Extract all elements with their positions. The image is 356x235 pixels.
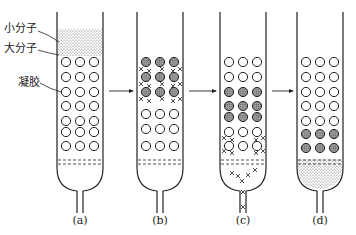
small-molecule-cross-icon [241,190,245,194]
gel-bead-icon [89,127,98,136]
small-molecule-cross-icon [139,97,143,101]
gel-bead-filled-icon [238,101,247,110]
gel-bead-filled-icon [224,101,233,110]
gel-bead-icon [315,57,324,66]
gel-bead-icon [315,87,324,96]
gel-bead-icon [155,141,164,150]
gel-bead-icon [329,116,338,125]
small-molecule-cross-icon [160,67,164,71]
gel-bead-icon [224,72,233,81]
gel-bead-icon [329,87,338,96]
gel-bead-icon [141,141,150,150]
eluted-small-molecule-band [298,159,342,189]
sample-band-stipple [58,29,102,56]
gel-bead-icon [315,116,324,125]
gel-bead-icon [252,141,261,150]
gel-bead-icon [61,141,70,150]
caption-c: (c) [236,214,251,227]
gel-bead-icon [89,101,98,110]
gel-bead-filled-icon [315,129,324,138]
gel-bead-icon [89,141,98,150]
gel-bead-icon [238,141,247,150]
captions-group: (a)(b)(c)(d) [72,214,327,227]
column-d [297,12,343,213]
gel-bead-filled-icon [155,87,164,96]
small-molecule-cross-icon [222,136,226,140]
small-molecule-cross-icon [230,138,234,142]
gel-filtration-diagram: 小分子 大分子 凝胶 (a)(b)(c)(d) [0,0,356,235]
gel-bead-filled-icon [238,112,247,121]
gel-bead-filled-icon [141,57,150,66]
gel-bead-icon [238,57,247,66]
small-molecule-cross-icon [261,136,265,140]
gel-bead-icon [301,116,310,125]
gel-bead-filled-icon [301,143,310,152]
gel-bead-icon [301,72,310,81]
gel-bead-icon [75,141,84,150]
gel-bead-icon [301,87,310,96]
gel-bead-icon [75,87,84,96]
small-molecule-cross-icon [178,67,182,71]
gel-bead-icon [75,127,84,136]
column-b [137,12,183,213]
gel-label: 凝胶 [18,75,40,89]
gel-bead-filled-icon [141,72,150,81]
small-molecule-cross-icon [254,151,258,155]
gel-bead-icon [75,116,84,125]
gel-bead-filled-icon [169,72,178,81]
gel-bead-icon [301,57,310,66]
gel-bead-icon [155,109,164,118]
gel-bead-filled-icon [252,112,261,121]
gel-bead-icon [252,127,261,136]
large-molecule-leader-line [38,50,59,55]
small-molecule-cross-icon [230,171,234,175]
gel-bead-icon [329,57,338,66]
annotation-labels: 小分子 大分子 凝胶 [4,22,61,92]
gel-bead-icon [141,109,150,118]
gel-bead-icon [169,124,178,133]
gel-bead-filled-icon [155,72,164,81]
column-c [220,12,266,213]
gel-bead-icon [61,72,70,81]
gel-bead-icon [238,72,247,81]
columns-group [57,12,343,213]
gel-bead-filled-icon [155,57,164,66]
caption-a: (a) [72,214,87,227]
gel-bead-filled-icon [141,87,150,96]
gel-bead-icon [224,57,233,66]
gel-bead-filled-icon [224,112,233,121]
gel-bead-icon [61,87,70,96]
caption-d: (d) [312,214,328,227]
gel-bead-icon [89,72,98,81]
gel-bead-filled-icon [169,87,178,96]
small-molecule-cross-icon [222,149,226,153]
small-molecule-cross-icon [236,174,240,178]
gel-bead-icon [75,57,84,66]
gel-bead-icon [89,87,98,96]
small-molecule-cross-icon [230,151,234,155]
small-molecule-cross-icon [171,99,175,103]
gel-bead-icon [61,116,70,125]
small-molecule-cross-icon [147,69,151,73]
gel-bead-icon [61,127,70,136]
gel-bead-icon [252,57,261,66]
gel-bead-filled-icon [329,143,338,152]
gel-bead-icon [329,72,338,81]
gel-bead-filled-icon [315,143,324,152]
gel-bead-icon [89,116,98,125]
gel-bead-filled-icon [252,101,261,110]
caption-b: (b) [152,214,168,227]
gel-bead-icon [301,101,310,110]
gel-bead-filled-icon [238,87,247,96]
small-molecule-cross-icon [178,97,182,101]
small-molecule-cross-icon [246,173,250,177]
gel-bead-icon [169,109,178,118]
gel-bead-icon [75,72,84,81]
gel-leader-line [40,83,61,92]
large-molecule-label: 大分子 [4,41,37,55]
gel-bead-icon [329,101,338,110]
small-molecule-cross-icon [147,99,151,103]
gel-bead-icon [169,141,178,150]
gel-bead-filled-icon [329,129,338,138]
gel-bead-filled-icon [169,57,178,66]
